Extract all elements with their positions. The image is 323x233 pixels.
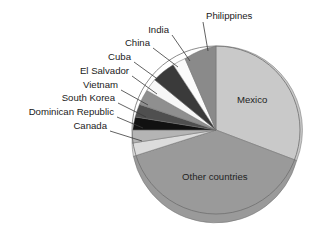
pie-slices <box>132 46 302 223</box>
label-china: China <box>125 37 151 48</box>
pie-chart-figure: Philippines India China Cuba El Salvador… <box>0 0 323 233</box>
label-dominican-republic: Dominican Republic <box>29 106 115 117</box>
label-mexico: Mexico <box>237 94 267 105</box>
pie-chart-svg: Philippines India China Cuba El Salvador… <box>0 0 323 233</box>
label-philippines: Philippines <box>206 10 253 21</box>
label-india: India <box>148 24 169 35</box>
label-other-countries: Other countries <box>182 171 248 182</box>
label-canada: Canada <box>73 120 107 131</box>
label-south-korea: South Korea <box>62 92 116 103</box>
label-cuba: Cuba <box>108 51 132 62</box>
label-el-salvador: El Salvador <box>80 65 130 76</box>
label-vietnam: Vietnam <box>83 79 118 90</box>
